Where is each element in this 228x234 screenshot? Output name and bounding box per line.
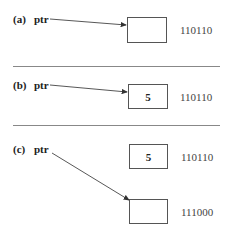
address-c-new: 111000	[181, 206, 213, 218]
pointer-name-c: ptr	[34, 143, 49, 155]
panel-label-a: (a)	[13, 13, 26, 25]
panel-label-c: (c)	[13, 143, 25, 155]
address-b: 110110	[180, 91, 212, 103]
memory-cell-b: 5	[128, 84, 168, 109]
memory-cell-a	[127, 17, 167, 43]
pointer-name-b: ptr	[34, 79, 49, 91]
address-a: 110110	[180, 24, 212, 36]
memory-cell-c-new	[129, 199, 168, 224]
pointer-name-a: ptr	[34, 13, 49, 25]
arrow-b	[50, 85, 127, 92]
arrow-c	[52, 153, 129, 200]
address-c-old: 110110	[181, 151, 213, 163]
arrow-a	[50, 19, 126, 25]
divider-1	[13, 66, 220, 67]
divider-2	[13, 125, 220, 126]
panel-label-b: (b)	[13, 79, 26, 91]
memory-cell-c-old: 5	[129, 144, 168, 169]
